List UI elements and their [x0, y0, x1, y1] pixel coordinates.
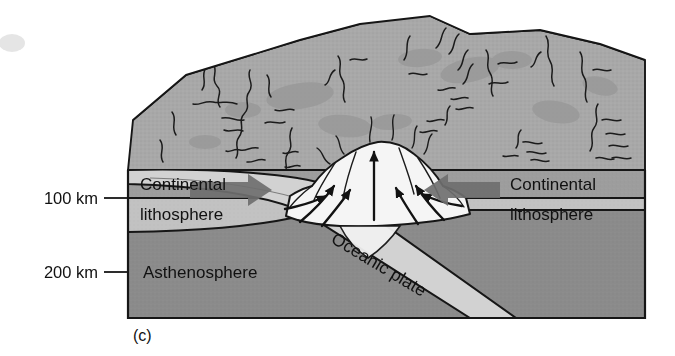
label-continental-left-line2: lithosphere: [140, 205, 223, 224]
panel-label: (c): [133, 327, 152, 344]
label-asthenosphere: Asthenosphere: [143, 263, 257, 282]
figure-canvas: 100 km 200 km Continental lithosphere Co…: [0, 0, 675, 356]
depth-tick-100km: 100 km: [44, 189, 98, 207]
depth-scale-ticks: [104, 198, 128, 272]
depth-tick-200km: 200 km: [44, 263, 98, 281]
scan-artifact: [0, 34, 25, 52]
block-diagram: 100 km 200 km Continental lithosphere Co…: [0, 0, 675, 356]
label-continental-right-line2: lithosphere: [510, 205, 593, 224]
label-continental-left-line1: Continental: [140, 175, 226, 194]
label-continental-right-line1: Continental: [510, 175, 596, 194]
